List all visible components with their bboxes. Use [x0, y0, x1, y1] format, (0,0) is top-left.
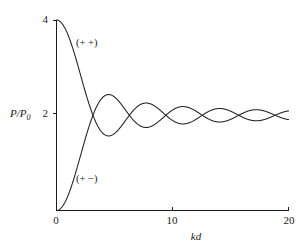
- xtick-label-0: 0: [53, 214, 59, 226]
- annotation-plus-minus: (+ −): [76, 173, 98, 185]
- annotation-plus-plus: (+ +): [76, 37, 98, 49]
- interference-pattern-chart: 4 2 0 10 20 P/P0 kd (+ +) (+ −): [0, 0, 305, 246]
- xtick-label-10: 10: [167, 214, 179, 226]
- x-axis-label: kd: [191, 230, 202, 242]
- ytick-label-4: 4: [43, 13, 49, 25]
- y-axis-label-main: P/P: [9, 107, 27, 119]
- xtick-label-20: 20: [284, 214, 296, 226]
- ytick-label-2: 2: [43, 107, 49, 119]
- y-axis-label-subscript: 0: [27, 113, 31, 122]
- y-axis-label: P/P0: [9, 107, 31, 122]
